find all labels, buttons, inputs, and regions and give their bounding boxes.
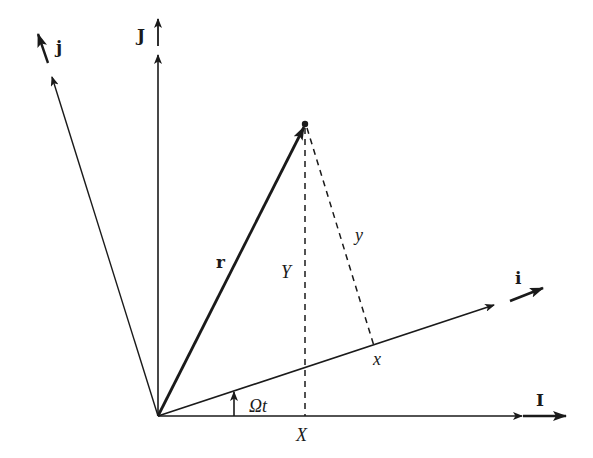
j-label: j bbox=[56, 39, 62, 56]
particle-point bbox=[302, 121, 308, 127]
i-axis bbox=[158, 305, 494, 416]
diagram-graphics bbox=[0, 0, 593, 458]
j-axis bbox=[52, 77, 158, 416]
j-unit-arrow bbox=[38, 34, 48, 63]
i-label: i bbox=[515, 270, 521, 287]
J-label: J bbox=[137, 27, 145, 44]
x-label: x bbox=[373, 350, 381, 368]
i-unit-arrow bbox=[510, 288, 543, 301]
omega-t-label: Ωt bbox=[249, 397, 267, 415]
y-projection-dashed bbox=[307, 128, 374, 346]
Y-label: Y bbox=[281, 263, 291, 281]
y-label: y bbox=[355, 226, 363, 244]
I-label: I bbox=[536, 392, 544, 409]
X-label: X bbox=[296, 426, 307, 444]
rotating-frame-diagram: J j i I r Y y x X Ωt bbox=[0, 0, 593, 458]
r-label: r bbox=[216, 254, 225, 271]
